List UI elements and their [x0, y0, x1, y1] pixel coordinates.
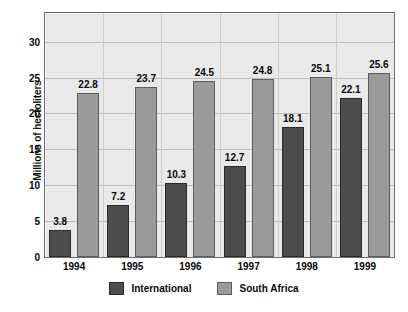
bar	[368, 73, 390, 257]
bar	[310, 77, 332, 257]
bar	[135, 87, 157, 257]
bar	[165, 183, 187, 257]
bar	[252, 79, 274, 257]
bar-value-label: 22.1	[341, 84, 360, 95]
category-divider	[336, 13, 337, 257]
bar	[49, 230, 71, 257]
bar-value-label: 22.8	[78, 79, 97, 90]
legend-label: South Africa	[239, 283, 298, 294]
bar-value-label: 3.8	[53, 216, 67, 227]
legend-swatch-icon	[109, 282, 124, 295]
y-axis-title: Millions of hectoliters	[32, 31, 43, 231]
bar-value-label: 24.8	[253, 65, 272, 76]
legend-label: International	[131, 283, 191, 294]
y-tick-label: 25	[10, 72, 40, 83]
category-divider	[220, 13, 221, 257]
x-tick-label: 1999	[354, 261, 376, 272]
x-tick-label: 1996	[179, 261, 201, 272]
x-tick-label: 1994	[63, 261, 85, 272]
bar-value-label: 18.1	[283, 113, 302, 124]
category-divider	[278, 13, 279, 257]
bar-value-label: 10.3	[167, 169, 186, 180]
plot-area	[44, 12, 395, 258]
y-tick-label: 20	[10, 108, 40, 119]
bar-value-label: 25.1	[311, 63, 330, 74]
category-divider	[161, 13, 162, 257]
bar	[193, 81, 215, 257]
bar-value-label: 12.7	[225, 152, 244, 163]
bar-value-label: 7.2	[111, 191, 125, 202]
category-divider	[103, 13, 104, 257]
bar	[77, 93, 99, 257]
bar-value-label: 25.6	[369, 59, 388, 70]
x-tick-label: 1997	[237, 261, 259, 272]
bar-value-label: 23.7	[137, 73, 156, 84]
y-tick-label: 5	[10, 216, 40, 227]
chart-legend: InternationalSouth Africa	[0, 282, 408, 295]
y-tick-label: 0	[10, 252, 40, 263]
x-tick-label: 1998	[296, 261, 318, 272]
legend-entry[interactable]: International	[109, 282, 191, 295]
x-tick-label: 1995	[121, 261, 143, 272]
y-tick-label: 10	[10, 180, 40, 191]
bar	[107, 205, 129, 257]
bar-chart: Millions of hectoliters 051015202530 199…	[0, 0, 408, 312]
y-tick-label: 30	[10, 36, 40, 47]
bar	[340, 98, 362, 257]
bar	[224, 166, 246, 257]
bar-value-label: 24.5	[195, 67, 214, 78]
bar	[282, 127, 304, 257]
legend-entry[interactable]: South Africa	[217, 282, 298, 295]
legend-swatch-icon	[217, 282, 232, 295]
y-tick-label: 15	[10, 144, 40, 155]
